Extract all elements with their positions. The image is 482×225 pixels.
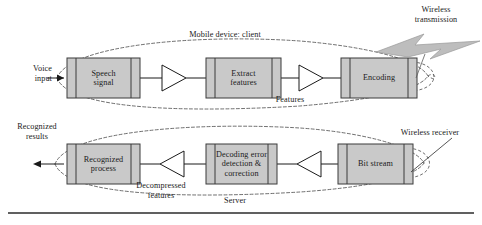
client-group-label: Mobile device: client	[163, 30, 287, 40]
wireless-receiver-label: Wireless receiver	[382, 128, 478, 138]
server-group-label: Server	[211, 196, 259, 206]
wireless-transmission-label: Wireless transmission	[392, 5, 480, 24]
client-triangle-1	[162, 65, 186, 91]
decompressed-features-label: Decompressed features	[118, 181, 204, 200]
features-flow-label: Features	[259, 95, 321, 105]
voice-input-label: Voice input	[4, 64, 52, 83]
block-extract-features-label: Extract features	[215, 58, 272, 98]
block-recognized-process-label: Recognized process	[76, 144, 131, 184]
block-bit-stream-label: Bit stream	[347, 144, 404, 184]
server-triangle-2	[297, 151, 321, 177]
wireless-receiver-leader	[411, 138, 452, 172]
diagram-figure: Mobile device: client Voice input Wirele…	[0, 0, 482, 225]
client-triangle-2	[299, 65, 323, 91]
block-encoding-label: Encoding	[350, 58, 408, 98]
server-triangle-1	[160, 151, 184, 177]
block-decoding-error-label: Decoding error detection & correction	[214, 144, 269, 184]
recognized-results-label: Recognized results	[6, 122, 68, 141]
block-speech-signal-label: Speech signal	[76, 58, 131, 98]
